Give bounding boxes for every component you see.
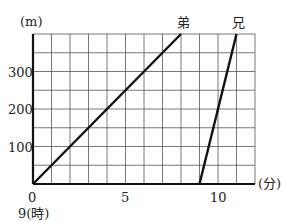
y-tick-100: 100 bbox=[8, 140, 33, 155]
y-tick-300: 300 bbox=[8, 65, 33, 80]
x-tick-5: 5 bbox=[121, 190, 129, 205]
grid bbox=[33, 34, 255, 184]
y-axis-unit: (m) bbox=[20, 14, 42, 29]
series-label-older: 兄 bbox=[232, 15, 245, 30]
x-tick-10: 10 bbox=[210, 190, 227, 205]
origin-time-label: 9(時) bbox=[18, 206, 49, 221]
distance-time-chart: (m) 300 200 100 0 5 10 9(時) (分) 弟 兄 bbox=[0, 0, 286, 222]
x-axis-unit: (分) bbox=[258, 176, 281, 191]
series-label-younger: 弟 bbox=[177, 15, 190, 30]
x-tick-0: 0 bbox=[28, 190, 36, 205]
y-tick-200: 200 bbox=[8, 102, 33, 117]
